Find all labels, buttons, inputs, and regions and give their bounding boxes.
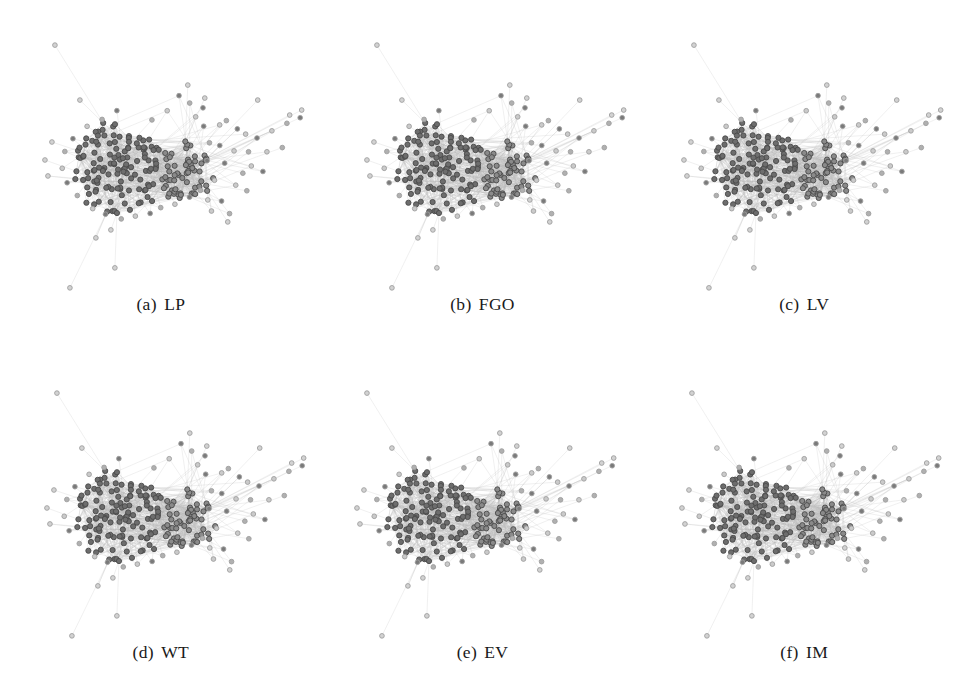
graph-node	[445, 562, 450, 567]
graph-node	[841, 124, 846, 129]
graph-node	[177, 93, 182, 98]
graph-node	[282, 493, 287, 498]
graph-node	[84, 136, 89, 141]
graph-node	[86, 484, 91, 489]
graph-node	[804, 164, 809, 169]
graph-node	[169, 539, 174, 544]
graph-node	[75, 193, 80, 198]
graph-node	[788, 496, 793, 501]
graph-node	[840, 105, 845, 110]
graph-node	[90, 206, 95, 211]
graph-node	[785, 559, 790, 564]
graph-node	[52, 488, 57, 493]
graph-node	[88, 524, 93, 529]
graph-node	[207, 536, 212, 541]
graph-node	[568, 149, 573, 154]
graph-node	[886, 512, 891, 517]
graph-node	[112, 122, 117, 127]
graph-node	[86, 548, 91, 553]
graph-node	[733, 481, 738, 486]
graph-node	[138, 177, 143, 182]
graph-node	[427, 515, 432, 520]
graph-node	[437, 167, 442, 172]
graph-node	[497, 518, 502, 523]
graph-node	[98, 156, 103, 161]
graph-node	[784, 532, 789, 537]
graph-node	[621, 108, 626, 113]
graph-node	[224, 118, 229, 123]
graph-node	[795, 147, 800, 152]
graph-node	[478, 539, 483, 544]
graph-node	[804, 539, 809, 544]
graph-node	[405, 142, 410, 147]
graph-node	[219, 491, 224, 496]
graph-node	[261, 169, 266, 174]
graph-node	[240, 171, 245, 176]
graph-node	[546, 118, 551, 123]
graph-node	[178, 192, 183, 197]
graph-node	[837, 188, 842, 193]
graph-node	[491, 523, 496, 528]
graph-node	[114, 470, 119, 475]
graph-node	[255, 136, 260, 141]
graph-node	[596, 469, 601, 474]
graph-node	[519, 488, 524, 493]
graph-node	[154, 161, 159, 166]
graph-node	[73, 484, 78, 489]
graph-node	[474, 498, 479, 503]
graph-node	[723, 136, 728, 141]
graph-node	[770, 562, 775, 567]
graph-node	[449, 207, 454, 212]
graph-node	[222, 161, 227, 166]
graph-node	[257, 484, 262, 489]
network-plot	[322, 348, 644, 648]
graph-node	[514, 191, 519, 196]
graph-node	[448, 535, 453, 540]
graph-node	[786, 514, 791, 519]
graph-node	[204, 444, 209, 449]
graph-node	[104, 481, 109, 486]
graph-node	[112, 155, 117, 160]
graph-node	[754, 210, 759, 215]
graph-node	[364, 391, 369, 396]
graph-node	[184, 180, 189, 185]
graph-node	[153, 496, 158, 501]
graph-node	[766, 524, 771, 529]
graph-node	[45, 506, 50, 511]
graph-node	[206, 531, 211, 536]
graph-node	[495, 510, 500, 515]
graph-node	[611, 456, 616, 461]
graph-node	[414, 167, 419, 172]
graph-node	[810, 550, 815, 555]
graph-node	[869, 497, 874, 502]
graph-node	[924, 121, 929, 126]
graph-node	[506, 180, 511, 185]
graph-node	[752, 139, 757, 144]
graph-node	[161, 186, 166, 191]
graph-node	[851, 178, 856, 183]
graph-node	[419, 156, 424, 161]
graph-node	[88, 539, 93, 544]
graph-node	[389, 493, 394, 498]
panel-ev: (e)EV	[322, 348, 644, 696]
graph-node	[817, 523, 822, 528]
graph-node	[104, 185, 109, 190]
graph-node	[428, 172, 433, 177]
graph-node	[433, 161, 438, 166]
graph-node	[439, 134, 444, 139]
graph-node	[130, 513, 135, 518]
graph-node	[50, 140, 55, 145]
graph-node	[766, 513, 771, 518]
graph-node	[201, 105, 206, 110]
graph-node	[403, 509, 408, 514]
graph-node	[442, 169, 447, 174]
graph-node	[855, 471, 860, 476]
graph-node	[111, 576, 116, 581]
graph-node	[396, 533, 401, 538]
graph-node	[187, 195, 192, 200]
graph-node	[576, 136, 581, 141]
graph-node	[109, 489, 114, 494]
graph-node	[459, 177, 464, 182]
graph-node	[516, 506, 521, 511]
graph-node	[119, 217, 124, 222]
